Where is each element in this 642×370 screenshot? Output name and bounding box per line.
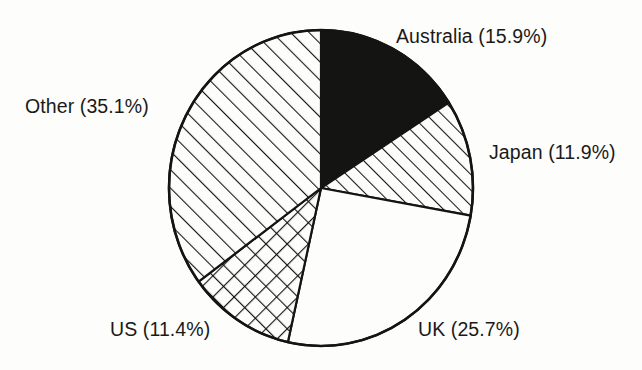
pie-label-australia: Australia (15.9%) <box>396 27 547 47</box>
pie-label-us: US (11.4%) <box>110 320 210 340</box>
pie-chart-graphic <box>0 0 642 370</box>
pie-chart-figure: Australia (15.9%) Japan (11.9%) UK (25.7… <box>0 0 642 370</box>
pie-label-uk: UK (25.7%) <box>418 320 520 340</box>
pie-label-japan: Japan (11.9%) <box>489 143 616 163</box>
pie-label-other: Other (35.1%) <box>25 97 149 117</box>
